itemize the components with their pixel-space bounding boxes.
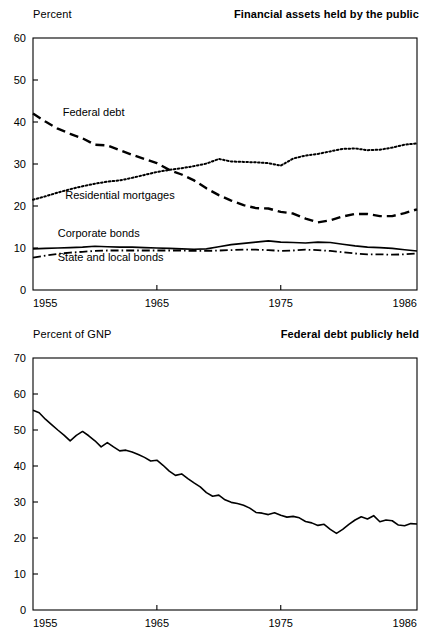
series-label-corporate-bonds: Corporate bonds <box>58 227 140 239</box>
y-tick-label: 60 <box>14 32 26 44</box>
x-tick-label: 1986 <box>393 617 417 629</box>
y-tick-label: 0 <box>20 604 26 616</box>
y-tick-label: 10 <box>14 568 26 580</box>
x-tick-label: 1965 <box>145 297 169 309</box>
chart-header-bottom: Percent of GNP Federal debt publicly hel… <box>0 328 445 346</box>
plot-area-federal-debt-gnp: 0102030405060701955196519751986 <box>0 346 445 640</box>
x-tick-label: 1965 <box>145 617 169 629</box>
y-tick-label: 20 <box>14 200 26 212</box>
plot-frame <box>33 358 417 610</box>
x-tick-label: 1955 <box>33 297 57 309</box>
chart-title: Federal debt publicly held <box>281 328 419 340</box>
x-tick-label: 1975 <box>268 617 292 629</box>
y-tick-label: 70 <box>14 352 26 364</box>
y-tick-label: 10 <box>14 242 26 254</box>
y-axis-unit-label: Percent of GNP <box>33 328 111 340</box>
series-label-state-and-local-bonds: State and local bonds <box>58 251 164 263</box>
y-tick-label: 20 <box>14 532 26 544</box>
y-tick-label: 40 <box>14 460 26 472</box>
y-tick-label: 60 <box>14 388 26 400</box>
y-tick-label: 50 <box>14 74 26 86</box>
y-tick-label: 30 <box>14 496 26 508</box>
series-line-federal-debt <box>33 114 417 223</box>
series-label-federal-debt: Federal debt <box>63 106 125 118</box>
y-axis-unit-label: Percent <box>33 8 72 20</box>
chart-federal-debt-gnp: Percent of GNP Federal debt publicly hel… <box>0 320 445 640</box>
y-tick-label: 30 <box>14 158 26 170</box>
x-tick-label: 1986 <box>393 297 417 309</box>
chart-header-top: Percent Financial assets held by the pub… <box>0 8 445 26</box>
series-label-residential-mortgages: Residential mortgages <box>65 189 175 201</box>
y-tick-label: 40 <box>14 116 26 128</box>
x-tick-label: 1975 <box>268 297 292 309</box>
chart-financial-assets: Percent Financial assets held by the pub… <box>0 0 445 320</box>
y-tick-label: 0 <box>20 284 26 296</box>
chart-title: Financial assets held by the public <box>234 8 419 20</box>
plot-area-financial-assets: 01020304050601955196519751986Federal deb… <box>0 26 445 320</box>
series-line-federal-debt-publicly-held <box>33 410 417 533</box>
x-tick-label: 1955 <box>33 617 57 629</box>
y-tick-label: 50 <box>14 424 26 436</box>
